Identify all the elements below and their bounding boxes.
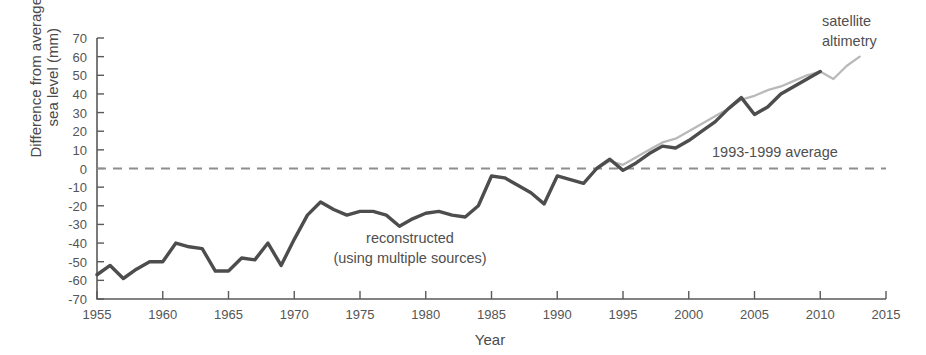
y-tick-label: -10 [68,180,87,195]
x-tick-label: 1975 [346,307,375,322]
y-tick-label: -20 [68,199,87,214]
plot-area: 706050403020100-10-20-30-40-50-60-70 195… [0,0,926,355]
annotation-baseline-label: 1993-1999 average [712,144,838,160]
x-tick-label: 1985 [477,307,506,322]
x-tick-label: 2000 [674,307,703,322]
x-axis-ticks: 1955196019651970197519801985199019952000… [83,291,901,322]
x-axis-title: Year [475,331,505,348]
x-tick-label: 1960 [148,307,177,322]
annotation-satellite-line1: satellite [822,13,871,29]
y-tick-label: -50 [68,255,87,270]
x-tick-label: 1965 [214,307,243,322]
x-tick-label: 2010 [806,307,835,322]
y-tick-label: 50 [73,68,87,83]
y-tick-label: 0 [80,162,87,177]
y-tick-label: 30 [73,106,87,121]
x-tick-label: 2005 [740,307,769,322]
sea-level-chart: Difference from average sea level (mm) 7… [0,0,926,355]
y-tick-label: -60 [68,273,87,288]
annotation-reconstructed-line1: reconstructed [366,230,454,246]
y-tick-label: 10 [73,143,87,158]
y-tick-label: -30 [68,217,87,232]
y-tick-label: -40 [68,236,87,251]
x-tick-label: 1990 [543,307,572,322]
x-tick-label: 1970 [280,307,309,322]
x-tick-label: 1995 [609,307,638,322]
x-tick-label: 1980 [411,307,440,322]
y-tick-label: 60 [73,50,87,65]
y-tick-label: 20 [73,124,87,139]
x-tick-label: 2015 [872,307,901,322]
y-tick-label: 40 [73,87,87,102]
x-tick-label: 1955 [83,307,112,322]
annotation-satellite-line2: altimetry [822,33,878,49]
y-tick-label: -70 [68,292,87,307]
series-reconstructed [97,72,820,279]
y-tick-label: 70 [73,31,87,46]
annotation-reconstructed-line2: (using multiple sources) [333,250,486,266]
